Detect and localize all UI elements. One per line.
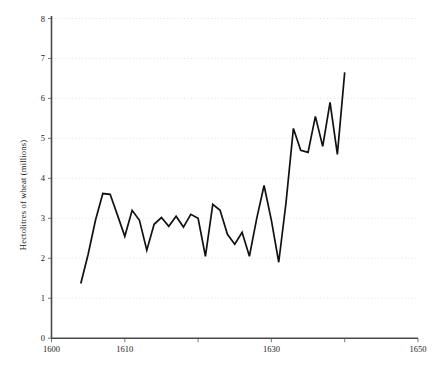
x-tick-label-1600: 1600 bbox=[43, 344, 60, 354]
x-tick-label-1610: 1610 bbox=[116, 344, 133, 354]
line-chart: 012345678 1600161016301650 Hectolitres o… bbox=[0, 0, 432, 365]
y-tick-label-0: 0 bbox=[41, 333, 45, 343]
chart-background bbox=[0, 0, 432, 365]
y-tick-label-3: 3 bbox=[41, 213, 45, 223]
y-tick-label-6: 6 bbox=[41, 93, 45, 103]
x-tick-label-1650: 1650 bbox=[410, 344, 427, 354]
x-tick-label-1630: 1630 bbox=[263, 344, 280, 354]
y-axis-title: Hectolitres of wheat (millions) bbox=[18, 140, 28, 250]
chart-container: 012345678 1600161016301650 Hectolitres o… bbox=[0, 0, 432, 365]
y-tick-label-2: 2 bbox=[41, 253, 45, 263]
y-tick-label-8: 8 bbox=[41, 14, 45, 24]
y-tick-label-5: 5 bbox=[41, 133, 45, 143]
y-tick-label-1: 1 bbox=[41, 293, 45, 303]
y-tick-label-7: 7 bbox=[41, 53, 45, 63]
